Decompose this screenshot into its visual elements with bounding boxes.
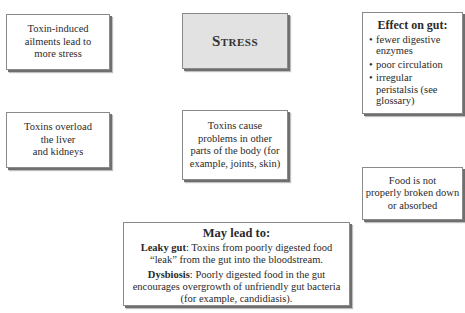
toxin-induced-box: Toxin-induced ailments lead to more stre… xyxy=(6,14,110,70)
leaky-gut-term: Leaky gut xyxy=(141,242,186,253)
effect-on-gut-box: Effect on gut: fewer digestive enzymes p… xyxy=(362,12,463,114)
stress-box: Stress xyxy=(182,13,288,69)
dysbiosis-paragraph: Dysbiosis: Poorly digested food in the g… xyxy=(132,269,341,305)
list-item: poor circulation xyxy=(369,59,456,71)
may-lead-to-box: May lead to: Leaky gut: Toxins from poor… xyxy=(123,222,350,306)
food-not-line: properly broken down xyxy=(366,187,459,200)
effect-on-gut-title: Effect on gut: xyxy=(369,19,456,32)
leaky-gut-paragraph: Leaky gut: Toxins from poorly digested f… xyxy=(132,242,341,266)
effect-on-gut-list: fewer digestive enzymes poor circulation… xyxy=(369,34,456,109)
stress-title: Stress xyxy=(212,35,258,48)
dysbiosis-term: Dysbiosis xyxy=(148,269,190,280)
toxin-induced-text: Toxin-induced ailments lead to more stre… xyxy=(15,23,101,61)
toxins-cause-box: Toxins cause problems in other parts of … xyxy=(182,110,288,180)
toxins-cause-text: Toxins cause problems in other parts of … xyxy=(189,120,281,170)
toxins-overload-line: Toxins overload xyxy=(24,121,92,134)
food-not-line: or absorbed xyxy=(388,200,437,213)
toxins-overload-line: the liver xyxy=(41,134,76,147)
list-item: irregular peristalsis (see glossary) xyxy=(369,72,456,107)
toxins-overload-line: and kidneys xyxy=(33,146,83,159)
list-item: fewer digestive enzymes xyxy=(369,34,456,57)
food-not-line: Food is not xyxy=(389,175,436,188)
toxins-overload-box: Toxins overload the liver and kidneys xyxy=(6,112,110,168)
food-not-box: Food is not properly broken down or abso… xyxy=(362,167,463,220)
may-lead-to-title: May lead to: xyxy=(203,227,270,240)
